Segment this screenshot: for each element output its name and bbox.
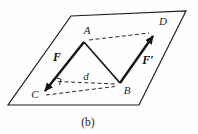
force-label-f: F — [52, 50, 61, 64]
point-label-b: B — [124, 84, 131, 96]
point-label-d: D — [158, 15, 167, 27]
point-label-a: A — [83, 24, 91, 36]
figure-caption: (b) — [81, 116, 95, 129]
point-label-c: C — [31, 88, 39, 100]
dashed-line-ad — [89, 33, 149, 40]
dashed-line-cb — [46, 87, 115, 96]
vector-f-line — [45, 42, 84, 91]
segment-ab — [84, 42, 120, 83]
distance-label-d: d — [83, 70, 89, 82]
force-label-f-prime: F′ — [141, 53, 153, 67]
diagram-canvas: A D C B F F′ d (b) — [0, 0, 198, 134]
couple-of-forces-figure: A D C B F F′ d (b) — [0, 0, 198, 134]
